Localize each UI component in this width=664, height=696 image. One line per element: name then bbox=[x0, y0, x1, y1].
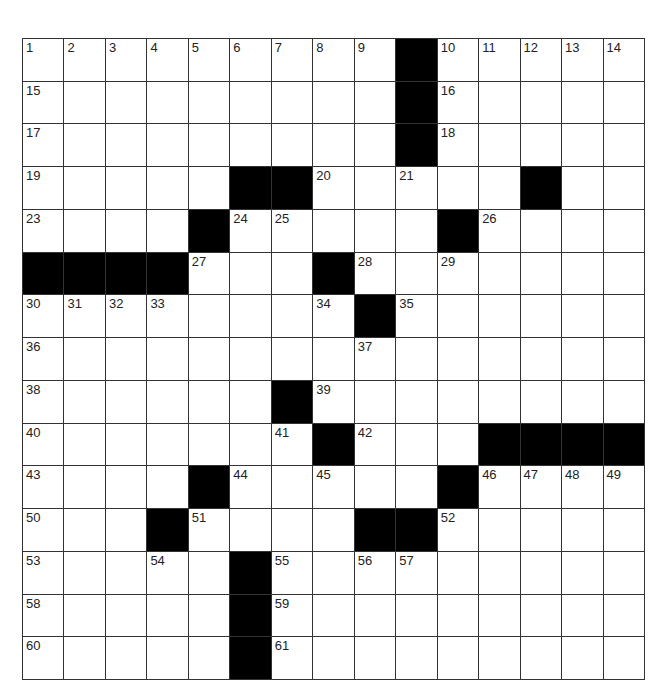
answer-cell[interactable]: 45 bbox=[313, 466, 353, 508]
answer-cell[interactable]: 2 bbox=[64, 39, 104, 81]
answer-cell[interactable] bbox=[479, 552, 519, 594]
answer-cell[interactable] bbox=[106, 552, 146, 594]
answer-cell[interactable]: 3 bbox=[106, 39, 146, 81]
answer-cell[interactable] bbox=[479, 381, 519, 423]
answer-cell[interactable] bbox=[562, 595, 602, 637]
answer-cell[interactable]: 53 bbox=[23, 552, 63, 594]
answer-cell[interactable] bbox=[147, 338, 187, 380]
answer-cell[interactable] bbox=[604, 338, 644, 380]
answer-cell[interactable] bbox=[106, 637, 146, 679]
answer-cell[interactable] bbox=[438, 295, 478, 337]
answer-cell[interactable] bbox=[313, 210, 353, 252]
answer-cell[interactable] bbox=[479, 637, 519, 679]
answer-cell[interactable] bbox=[147, 466, 187, 508]
answer-cell[interactable] bbox=[438, 637, 478, 679]
answer-cell[interactable]: 23 bbox=[23, 210, 63, 252]
answer-cell[interactable] bbox=[604, 210, 644, 252]
answer-cell[interactable] bbox=[147, 124, 187, 166]
answer-cell[interactable] bbox=[106, 381, 146, 423]
answer-cell[interactable]: 39 bbox=[313, 381, 353, 423]
answer-cell[interactable] bbox=[64, 424, 104, 466]
answer-cell[interactable] bbox=[604, 595, 644, 637]
answer-cell[interactable]: 21 bbox=[396, 167, 436, 209]
answer-cell[interactable]: 54 bbox=[147, 552, 187, 594]
answer-cell[interactable] bbox=[438, 552, 478, 594]
answer-cell[interactable] bbox=[396, 338, 436, 380]
answer-cell[interactable] bbox=[230, 124, 270, 166]
answer-cell[interactable] bbox=[562, 124, 602, 166]
answer-cell[interactable] bbox=[355, 82, 395, 124]
answer-cell[interactable] bbox=[562, 295, 602, 337]
answer-cell[interactable] bbox=[604, 295, 644, 337]
answer-cell[interactable] bbox=[604, 381, 644, 423]
answer-cell[interactable]: 18 bbox=[438, 124, 478, 166]
answer-cell[interactable]: 15 bbox=[23, 82, 63, 124]
answer-cell[interactable]: 57 bbox=[396, 552, 436, 594]
answer-cell[interactable]: 27 bbox=[189, 253, 229, 295]
answer-cell[interactable] bbox=[64, 124, 104, 166]
answer-cell[interactable] bbox=[562, 82, 602, 124]
answer-cell[interactable] bbox=[479, 167, 519, 209]
answer-cell[interactable] bbox=[189, 595, 229, 637]
answer-cell[interactable] bbox=[355, 124, 395, 166]
answer-cell[interactable] bbox=[106, 167, 146, 209]
answer-cell[interactable] bbox=[562, 338, 602, 380]
answer-cell[interactable] bbox=[272, 509, 312, 551]
answer-cell[interactable]: 44 bbox=[230, 466, 270, 508]
answer-cell[interactable] bbox=[272, 124, 312, 166]
answer-cell[interactable]: 26 bbox=[479, 210, 519, 252]
answer-cell[interactable] bbox=[230, 295, 270, 337]
answer-cell[interactable] bbox=[521, 253, 561, 295]
answer-cell[interactable] bbox=[479, 595, 519, 637]
answer-cell[interactable] bbox=[189, 338, 229, 380]
answer-cell[interactable] bbox=[562, 637, 602, 679]
answer-cell[interactable] bbox=[230, 381, 270, 423]
answer-cell[interactable] bbox=[396, 595, 436, 637]
answer-cell[interactable] bbox=[64, 466, 104, 508]
answer-cell[interactable] bbox=[438, 167, 478, 209]
answer-cell[interactable] bbox=[189, 295, 229, 337]
answer-cell[interactable] bbox=[106, 509, 146, 551]
answer-cell[interactable] bbox=[396, 210, 436, 252]
answer-cell[interactable] bbox=[479, 253, 519, 295]
answer-cell[interactable] bbox=[147, 424, 187, 466]
answer-cell[interactable] bbox=[479, 295, 519, 337]
answer-cell[interactable]: 12 bbox=[521, 39, 561, 81]
answer-cell[interactable] bbox=[562, 381, 602, 423]
answer-cell[interactable] bbox=[313, 595, 353, 637]
answer-cell[interactable]: 33 bbox=[147, 295, 187, 337]
answer-cell[interactable] bbox=[396, 381, 436, 423]
answer-cell[interactable] bbox=[562, 210, 602, 252]
answer-cell[interactable] bbox=[147, 381, 187, 423]
answer-cell[interactable]: 43 bbox=[23, 466, 63, 508]
answer-cell[interactable]: 55 bbox=[272, 552, 312, 594]
answer-cell[interactable] bbox=[521, 595, 561, 637]
answer-cell[interactable] bbox=[604, 253, 644, 295]
answer-cell[interactable] bbox=[64, 509, 104, 551]
answer-cell[interactable]: 19 bbox=[23, 167, 63, 209]
answer-cell[interactable]: 36 bbox=[23, 338, 63, 380]
answer-cell[interactable] bbox=[355, 637, 395, 679]
answer-cell[interactable] bbox=[64, 82, 104, 124]
answer-cell[interactable] bbox=[64, 595, 104, 637]
answer-cell[interactable]: 4 bbox=[147, 39, 187, 81]
answer-cell[interactable] bbox=[479, 509, 519, 551]
answer-cell[interactable] bbox=[562, 253, 602, 295]
answer-cell[interactable] bbox=[562, 509, 602, 551]
answer-cell[interactable] bbox=[230, 338, 270, 380]
answer-cell[interactable] bbox=[106, 210, 146, 252]
answer-cell[interactable]: 16 bbox=[438, 82, 478, 124]
answer-cell[interactable] bbox=[147, 637, 187, 679]
answer-cell[interactable]: 42 bbox=[355, 424, 395, 466]
answer-cell[interactable] bbox=[438, 338, 478, 380]
answer-cell[interactable] bbox=[106, 124, 146, 166]
answer-cell[interactable] bbox=[521, 509, 561, 551]
answer-cell[interactable]: 9 bbox=[355, 39, 395, 81]
answer-cell[interactable]: 56 bbox=[355, 552, 395, 594]
answer-cell[interactable] bbox=[147, 82, 187, 124]
answer-cell[interactable] bbox=[521, 295, 561, 337]
answer-cell[interactable] bbox=[230, 82, 270, 124]
answer-cell[interactable]: 17 bbox=[23, 124, 63, 166]
answer-cell[interactable]: 61 bbox=[272, 637, 312, 679]
answer-cell[interactable]: 32 bbox=[106, 295, 146, 337]
